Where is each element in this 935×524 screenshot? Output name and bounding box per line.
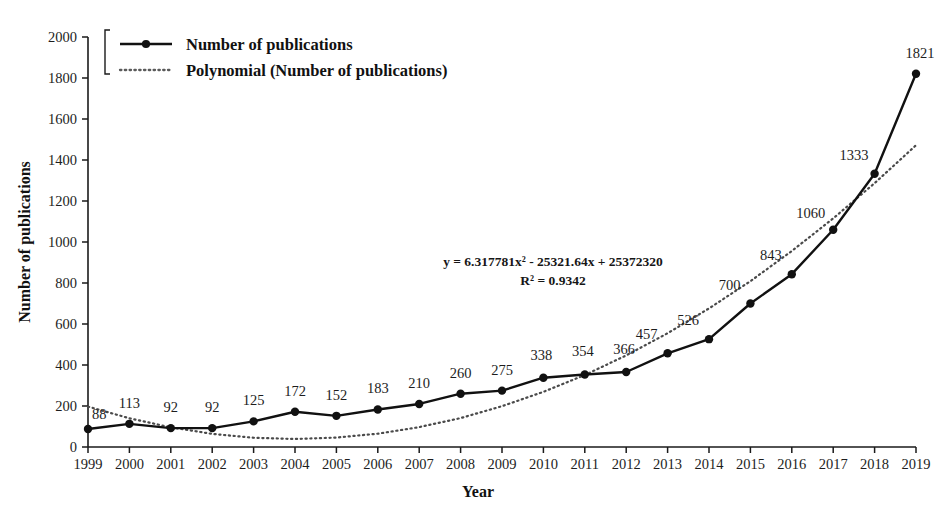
data-point-marker[interactable] — [912, 69, 920, 77]
y-tick-label: 600 — [55, 316, 77, 332]
data-point-label: 366 — [613, 341, 635, 357]
x-tick-label: 2016 — [777, 456, 806, 472]
x-tick-label: 2007 — [405, 456, 434, 472]
data-point-marker[interactable] — [498, 386, 506, 394]
chart-container: 0200400600800100012001400160018002000 19… — [0, 0, 935, 524]
data-point-marker[interactable] — [581, 370, 589, 378]
data-point-label: 1333 — [840, 147, 869, 163]
data-point-label: 1060 — [796, 205, 825, 221]
data-point-marker[interactable] — [249, 417, 257, 425]
data-point-label: 1821 — [906, 45, 935, 61]
data-point-marker[interactable] — [622, 368, 630, 376]
data-point-label: 843 — [760, 247, 782, 263]
x-tick-label: 2001 — [156, 456, 185, 472]
y-tick-label: 200 — [55, 398, 77, 414]
y-tick-label: 800 — [55, 275, 77, 291]
y-tick-label: 1800 — [48, 70, 77, 86]
data-point-marker[interactable] — [456, 390, 464, 398]
data-point-marker[interactable] — [125, 420, 133, 428]
x-tick-label: 2000 — [115, 456, 144, 472]
x-tick-label: 2019 — [902, 456, 931, 472]
data-point-label: 354 — [572, 343, 595, 359]
data-point-label: 92 — [205, 399, 220, 415]
data-point-label: 210 — [408, 375, 430, 391]
data-point-marker[interactable] — [291, 408, 299, 416]
y-axis-title: Number of publications — [16, 161, 34, 323]
x-tick-label: 2008 — [446, 456, 475, 472]
data-point-marker[interactable] — [374, 405, 382, 413]
x-tick-label: 2009 — [488, 456, 517, 472]
data-point-label: 183 — [367, 380, 389, 396]
y-tick-label: 1000 — [48, 234, 77, 250]
y-tick-label: 400 — [55, 357, 77, 373]
legend-dot-marker-icon — [142, 40, 150, 48]
x-tick-label: 2017 — [819, 456, 848, 472]
x-axis-tick-labels: 1999200020012002200320042005200620072008… — [74, 456, 931, 472]
data-point-label: 260 — [450, 365, 472, 381]
x-tick-label: 2010 — [529, 456, 558, 472]
r-squared-annotation: R² = 0.9342 — [520, 273, 586, 288]
x-tick-label: 2003 — [239, 456, 268, 472]
data-point-marker[interactable] — [663, 349, 671, 357]
data-point-marker[interactable] — [705, 335, 713, 343]
data-point-label: 152 — [326, 387, 348, 403]
x-tick-label: 2018 — [860, 456, 889, 472]
data-point-label: 338 — [531, 347, 553, 363]
data-point-label: 92 — [164, 399, 179, 415]
x-tick-label: 2013 — [653, 456, 682, 472]
y-tick-label: 1400 — [48, 152, 77, 168]
legend-label-series-2: Polynomial (Number of publications) — [186, 61, 447, 80]
trendline-equation-annotation: y = 6.317781x² - 25321.64x + 25372320 — [443, 254, 663, 269]
data-point-label: 526 — [677, 312, 699, 328]
data-point-label: 172 — [284, 383, 306, 399]
data-point-label: 457 — [636, 326, 658, 342]
x-tick-label: 2004 — [281, 456, 311, 472]
data-point-label: 125 — [243, 392, 265, 408]
publications-line-chart: 0200400600800100012001400160018002000 19… — [0, 0, 935, 524]
x-axis-title: Year — [462, 483, 494, 500]
data-point-marker[interactable] — [746, 299, 754, 307]
data-point-label: 700 — [719, 277, 741, 293]
y-tick-label: 2000 — [48, 29, 77, 45]
data-point-marker[interactable] — [788, 270, 796, 278]
x-tick-label: 2015 — [736, 456, 765, 472]
legend-label-series-1: Number of publications — [186, 35, 353, 54]
x-tick-label: 1999 — [74, 456, 103, 472]
x-tick-label: 2011 — [571, 456, 599, 472]
data-point-marker[interactable] — [208, 424, 216, 432]
data-point-marker[interactable] — [332, 412, 340, 420]
y-tick-label: 0 — [70, 439, 77, 455]
x-tick-label: 2005 — [322, 456, 351, 472]
data-point-marker[interactable] — [167, 424, 175, 432]
data-point-label: 275 — [491, 362, 513, 378]
x-tick-label: 2006 — [363, 456, 392, 472]
data-point-marker[interactable] — [539, 374, 547, 382]
x-tick-label: 2002 — [198, 456, 227, 472]
data-point-marker[interactable] — [829, 226, 837, 234]
data-point-marker[interactable] — [870, 170, 878, 178]
data-point-label: 88 — [92, 406, 107, 422]
y-tick-label: 1200 — [48, 193, 77, 209]
y-tick-label: 1600 — [48, 111, 77, 127]
data-point-marker[interactable] — [415, 400, 423, 408]
x-tick-label: 2012 — [612, 456, 641, 472]
x-tick-label: 2014 — [695, 456, 725, 472]
data-point-marker[interactable] — [84, 425, 92, 433]
data-point-label: 113 — [119, 395, 140, 411]
x-axis-ticks — [88, 447, 916, 453]
